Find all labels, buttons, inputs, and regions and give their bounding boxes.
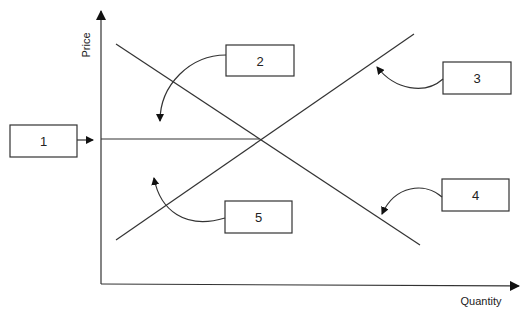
supply-demand-diagram: Price Quantity 1 2 3 4 5: [0, 0, 526, 314]
x-axis: [101, 284, 519, 286]
box-2-label: 2: [256, 54, 263, 69]
callout-box-2: 2: [160, 45, 294, 121]
callout-box-4: 4: [382, 179, 509, 214]
y-axis-label: Price: [80, 32, 92, 57]
box-1-label: 1: [40, 134, 47, 149]
arrow-5: [154, 178, 225, 222]
arrow-3: [377, 67, 443, 88]
callout-box-5: 5: [154, 178, 292, 233]
callout-box-3: 3: [377, 62, 511, 94]
arrow-2: [160, 55, 226, 121]
callout-box-1: 1: [10, 125, 93, 157]
box-4-label: 4: [472, 188, 479, 203]
box-5-label: 5: [255, 210, 262, 225]
x-axis-label: Quantity: [461, 295, 502, 307]
axes: Price Quantity: [80, 11, 519, 307]
arrow-4: [382, 188, 442, 214]
box-3-label: 3: [473, 71, 480, 86]
